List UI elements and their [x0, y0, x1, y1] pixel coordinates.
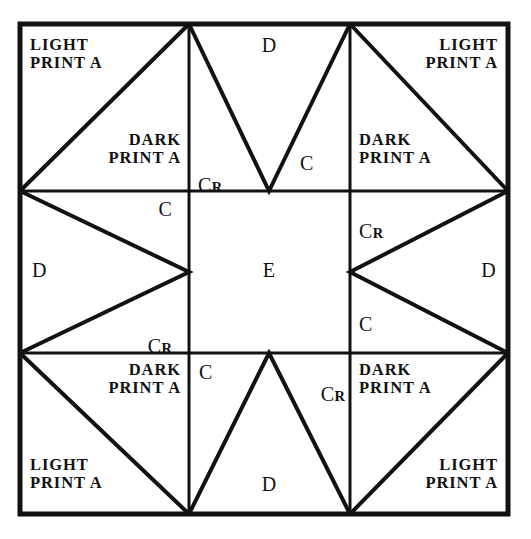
block-outer-border	[20, 24, 508, 514]
quilt-block-linework	[0, 0, 531, 539]
quilt-block-diagram: LIGHT PRINT A DARK PRINT A D CR C LIGHT …	[0, 0, 531, 539]
